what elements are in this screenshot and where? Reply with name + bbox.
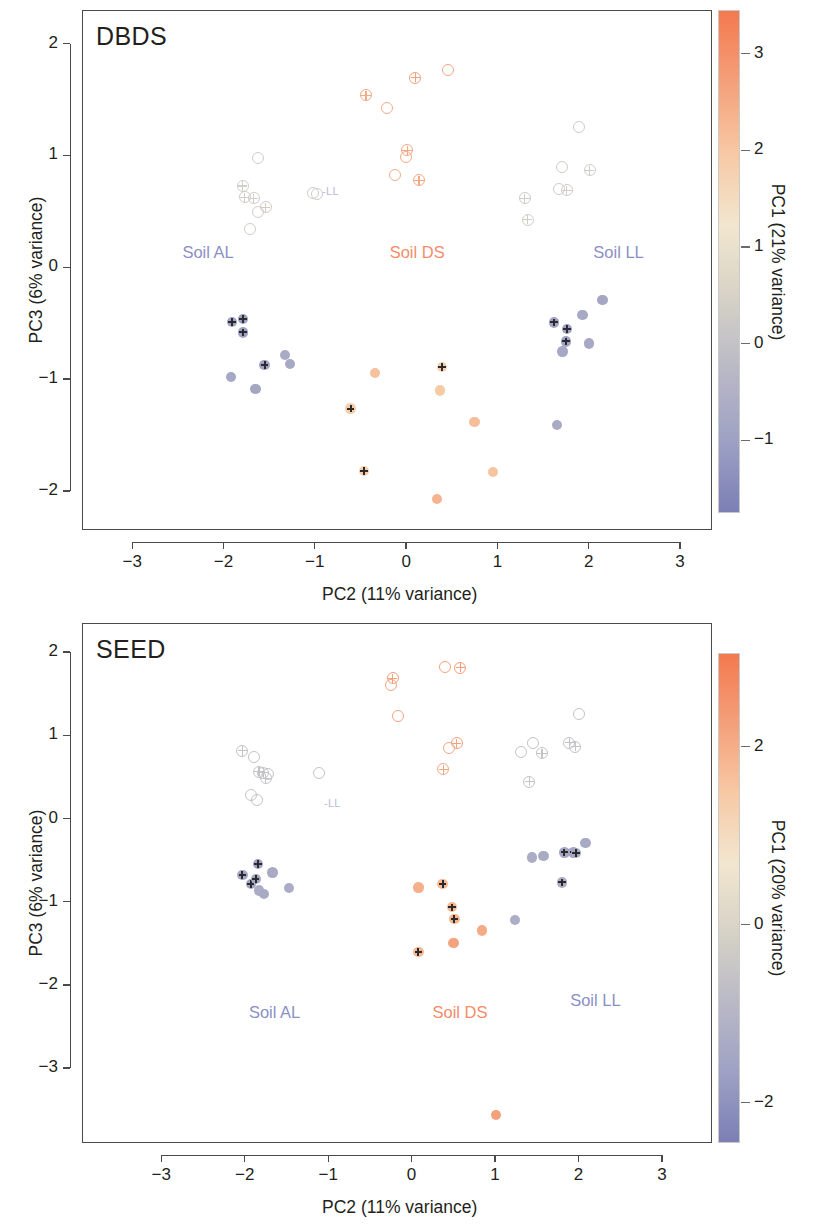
colorbar-tick-label: 0 xyxy=(754,333,763,353)
data-point xyxy=(573,121,585,133)
colorbar-tick-label: −1 xyxy=(754,429,773,449)
colorbar-tick-label: 2 xyxy=(754,736,763,756)
y-tick xyxy=(63,651,70,652)
data-point xyxy=(267,867,277,877)
data-point xyxy=(580,838,590,848)
x-tick xyxy=(497,542,498,549)
colorbar-tick-label: 3 xyxy=(754,43,763,63)
data-point xyxy=(561,336,571,346)
data-point xyxy=(448,938,458,948)
data-point xyxy=(523,776,535,788)
data-point xyxy=(597,295,607,305)
data-point xyxy=(432,494,442,504)
data-point xyxy=(400,151,412,163)
data-point xyxy=(491,1110,501,1120)
data-point xyxy=(556,161,568,173)
x-tick xyxy=(494,1155,495,1162)
y-tick xyxy=(63,378,70,379)
x-tick-label: 1 xyxy=(472,552,522,572)
y-tick-label: 2 xyxy=(12,33,58,53)
x-tick xyxy=(588,542,589,549)
data-point xyxy=(248,751,260,763)
data-point xyxy=(237,180,249,192)
x-tick-label: −3 xyxy=(107,552,157,572)
outlier-label: -LL xyxy=(324,797,341,809)
data-point xyxy=(251,794,263,806)
y-tick xyxy=(63,267,70,268)
data-point xyxy=(443,742,455,754)
colorbar-tick xyxy=(741,746,750,747)
data-point xyxy=(571,848,581,858)
cluster-label: Soil AL xyxy=(249,1003,300,1022)
data-point xyxy=(385,679,397,691)
x-tick-label: 0 xyxy=(381,552,431,572)
x-tick xyxy=(132,542,133,549)
y-axis-line xyxy=(70,652,71,1068)
y-tick xyxy=(63,984,70,985)
x-tick-label: −1 xyxy=(303,1165,353,1185)
data-point xyxy=(259,360,269,370)
colorbar-tick xyxy=(741,343,750,344)
y-tick xyxy=(63,818,70,819)
data-point xyxy=(259,889,269,899)
data-point xyxy=(527,737,539,749)
x-tick xyxy=(405,542,406,549)
data-point xyxy=(413,882,423,892)
plot-frame-seed xyxy=(82,623,712,1143)
x-tick xyxy=(314,542,315,549)
x-tick-label: −2 xyxy=(199,552,249,572)
data-point xyxy=(251,874,261,884)
x-tick xyxy=(411,1155,412,1162)
y-axis-title: PC3 (6% variance) xyxy=(26,190,47,350)
x-tick-label: 3 xyxy=(655,552,705,572)
colorbar-tick-label: 1 xyxy=(754,236,763,256)
cluster-label: Soil DS xyxy=(390,243,445,262)
data-point xyxy=(248,192,260,204)
y-tick-label: −2 xyxy=(12,974,58,994)
data-point xyxy=(527,852,537,862)
data-point xyxy=(437,879,447,889)
colorbar-title: PC1 (20% variance) xyxy=(767,813,788,983)
x-axis-title: PC2 (11% variance) xyxy=(322,584,472,605)
cluster-label: Soil LL xyxy=(570,991,620,1010)
colorbar-gradient xyxy=(718,653,740,1143)
data-point xyxy=(477,925,487,935)
x-tick-label: −3 xyxy=(136,1165,186,1185)
data-point xyxy=(313,767,325,779)
plot-frame-dbds xyxy=(82,10,712,530)
y-tick xyxy=(63,735,70,736)
data-point xyxy=(584,164,596,176)
data-point xyxy=(413,174,425,186)
x-tick-label: 0 xyxy=(387,1165,437,1185)
data-point xyxy=(345,403,355,413)
y-tick xyxy=(63,155,70,156)
data-point xyxy=(238,314,248,324)
data-point xyxy=(552,420,562,430)
data-point xyxy=(237,870,247,880)
panel-title-seed: SEED xyxy=(96,635,166,664)
data-point xyxy=(439,661,451,673)
y-tick xyxy=(63,901,70,902)
y-tick-label: −3 xyxy=(12,1057,58,1077)
data-point xyxy=(389,169,401,181)
cluster-label: Soil DS xyxy=(432,1003,487,1022)
data-point xyxy=(577,310,587,320)
data-point xyxy=(260,772,272,784)
y-tick xyxy=(63,43,70,44)
x-tick-label: 2 xyxy=(564,552,614,572)
x-tick xyxy=(223,542,224,549)
x-tick xyxy=(244,1155,245,1162)
colorbar-tick xyxy=(741,53,750,54)
colorbar-tick-label: −2 xyxy=(754,1092,773,1112)
colorbar-title: PC1 (21% variance) xyxy=(767,177,788,347)
data-point xyxy=(447,902,457,912)
data-point xyxy=(454,662,466,674)
y-tick-label: −1 xyxy=(12,368,58,388)
data-point xyxy=(469,417,479,427)
data-point xyxy=(244,223,256,235)
y-tick-label: 1 xyxy=(12,144,58,164)
data-point xyxy=(538,851,548,861)
panel-title-dbds: DBDS xyxy=(96,22,167,51)
data-point xyxy=(252,152,264,164)
data-point xyxy=(561,184,573,196)
